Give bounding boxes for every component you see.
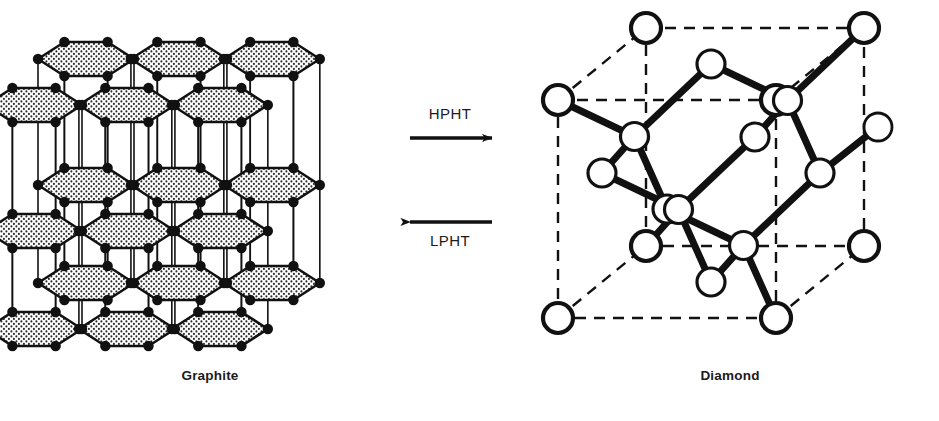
caption-diamond: Diamond: [520, 368, 939, 383]
graphite-carbon-atom: [59, 197, 69, 207]
graphite-carbon-atom: [219, 54, 229, 64]
graphite-carbon-atom: [315, 54, 325, 64]
graphite-carbon-atom: [152, 295, 162, 305]
graphite-carbon-atom: [263, 324, 273, 334]
graphite-carbon-atom: [236, 307, 246, 317]
graphite-carbon-atom: [102, 163, 112, 173]
graphite-carbon-atom: [263, 100, 273, 110]
graphite-carbon-atom: [152, 71, 162, 81]
diamond-carbon-atom: [665, 196, 693, 224]
graphite-carbon-atom: [288, 295, 298, 305]
graphite-layer: [0, 37, 325, 127]
graphite-carbon-atom: [288, 71, 298, 81]
graphite-carbon-atom: [288, 261, 298, 271]
diamond-carbon-atom: [806, 159, 834, 187]
graphite-carbon-atom: [143, 209, 153, 219]
graphite-carbon-atom: [219, 278, 229, 288]
graphite-carbon-atom: [126, 54, 136, 64]
diamond-carbon-atom: [588, 159, 616, 187]
diamond-carbon-atom: [621, 123, 649, 151]
graphite-carbon-atom: [193, 83, 203, 93]
crystal-structure-figure: [0, 0, 939, 421]
diamond-carbon-atom: [849, 231, 879, 261]
graphite-hexagon-sheet: [79, 88, 175, 122]
graphite-carbon-atom: [167, 324, 177, 334]
graphite-carbon-atom: [152, 197, 162, 207]
graphite-carbon-atom: [102, 71, 112, 81]
graphite-hexagon-sheet: [38, 266, 134, 300]
graphite-carbon-atom: [126, 180, 136, 190]
graphite-layer: [0, 261, 325, 351]
diamond-carbon-atom: [730, 232, 758, 260]
graphite-carbon-atom: [74, 100, 84, 110]
graphite-carbon-atom: [245, 197, 255, 207]
diamond-bond: [744, 173, 821, 246]
graphite-carbon-atom: [102, 261, 112, 271]
graphite-carbon-atom: [167, 100, 177, 110]
graphite-carbon-atom: [143, 341, 153, 351]
graphite-hexagon-sheet: [79, 214, 175, 248]
graphite-carbon-atom: [50, 209, 60, 219]
diamond-carbon-atom: [741, 123, 769, 151]
graphite-hexagon-sheet: [131, 266, 227, 300]
graphite-layer: [0, 163, 325, 253]
graphite-carbon-atom: [74, 226, 84, 236]
graphite-carbon-atom: [195, 163, 205, 173]
graphite-carbon-atom: [315, 180, 325, 190]
graphite-hexagon-sheet: [172, 214, 268, 248]
graphite-carbon-atom: [100, 307, 110, 317]
graphite-carbon-atom: [152, 163, 162, 173]
graphite-carbon-atom: [100, 209, 110, 219]
diamond-carbon-atom: [774, 87, 802, 115]
graphite-carbon-atom: [7, 307, 17, 317]
graphite-carbon-atom: [236, 341, 246, 351]
graphite-carbon-atom: [236, 243, 246, 253]
graphite-carbon-atom: [33, 180, 43, 190]
graphite-carbon-atom: [102, 197, 112, 207]
graphite-carbon-atom: [102, 295, 112, 305]
diamond-carbon-atom: [849, 13, 879, 43]
graphite-carbon-atom: [33, 54, 43, 64]
arrow-label-lpht: LPHT: [370, 232, 530, 249]
graphite-carbon-atom: [33, 278, 43, 288]
graphite-carbon-atom: [152, 261, 162, 271]
graphite-hexagon-sheet: [79, 312, 175, 346]
graphite-carbon-atom: [143, 307, 153, 317]
graphite-carbon-atom: [315, 278, 325, 288]
graphite-carbon-atom: [100, 341, 110, 351]
graphite-carbon-atom: [193, 307, 203, 317]
graphite-carbon-atom: [7, 243, 17, 253]
graphite-carbon-atom: [288, 163, 298, 173]
graphite-carbon-atom: [100, 243, 110, 253]
graphite-carbon-atom: [193, 209, 203, 219]
graphite-carbon-atom: [288, 37, 298, 47]
graphite-hexagon-sheet: [131, 168, 227, 202]
graphite-carbon-atom: [195, 37, 205, 47]
graphite-hexagon-sheet: [172, 312, 268, 346]
graphite-carbon-atom: [236, 83, 246, 93]
graphite-carbon-atom: [59, 295, 69, 305]
graphite-carbon-atom: [245, 295, 255, 305]
graphite-hexagon-sheet: [172, 88, 268, 122]
diamond-structure: [543, 13, 892, 333]
graphite-carbon-atom: [245, 71, 255, 81]
graphite-carbon-atom: [195, 295, 205, 305]
graphite-carbon-atom: [167, 226, 177, 236]
graphite-carbon-atom: [236, 117, 246, 127]
graphite-carbon-atom: [143, 117, 153, 127]
graphite-hexagon-sheet: [224, 266, 320, 300]
diamond-carbon-atom: [631, 13, 661, 43]
graphite-carbon-atom: [59, 37, 69, 47]
graphite-carbon-atom: [7, 117, 17, 127]
graphite-carbon-atom: [102, 37, 112, 47]
diamond-carbon-atom: [543, 85, 573, 115]
graphite-hexagon-sheet: [224, 42, 320, 76]
graphite-carbon-atom: [263, 226, 273, 236]
graphite-carbon-atom: [236, 209, 246, 219]
diamond-carbon-atom: [631, 231, 661, 261]
diamond-carbon-atom-external: [864, 113, 892, 141]
graphite-carbon-atom: [193, 243, 203, 253]
graphite-carbon-atom: [245, 261, 255, 271]
diamond-carbon-atom: [761, 303, 791, 333]
graphite-carbon-atom: [50, 307, 60, 317]
